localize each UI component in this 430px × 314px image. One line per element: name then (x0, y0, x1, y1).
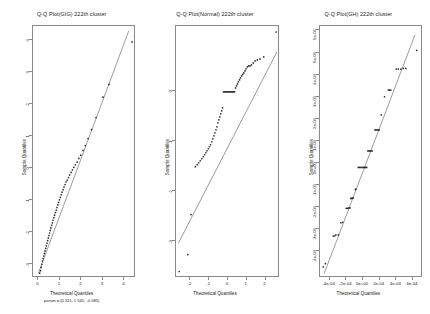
data-point (57, 204, 59, 206)
scatter-canvas-normal (176, 26, 278, 277)
data-point (52, 219, 54, 221)
data-point (95, 117, 97, 119)
data-point (397, 68, 399, 70)
reference-line (38, 31, 128, 273)
data-point (78, 158, 80, 160)
data-point (246, 68, 248, 70)
panel-title-gig: Q-Q Plot(GIG) 222th cluster (0, 11, 143, 17)
data-point (62, 189, 64, 191)
x-tick (345, 277, 346, 280)
x-tick-label: 0 (36, 281, 38, 286)
data-point (218, 119, 220, 121)
data-point (69, 174, 71, 176)
data-point (41, 263, 43, 265)
data-point (49, 232, 51, 234)
data-point (75, 164, 77, 166)
data-point (214, 132, 216, 134)
data-point (400, 68, 402, 70)
data-point (238, 81, 240, 83)
y-tick (172, 240, 175, 241)
data-point (68, 177, 70, 179)
x-tick (59, 277, 60, 280)
x-tick-label: 0 (226, 281, 228, 286)
x-tick-label: 2 (263, 281, 265, 286)
scatter-canvas-gh (320, 26, 422, 277)
data-point (241, 75, 243, 77)
data-point (195, 166, 197, 168)
data-point (239, 79, 241, 81)
data-point (42, 258, 44, 260)
data-point (341, 221, 343, 223)
y-tick-label: -2e-04 (311, 206, 316, 218)
y-tick (172, 190, 175, 191)
y-tick-label: -3 (25, 263, 30, 267)
x-tick (80, 277, 81, 280)
data-point (204, 154, 206, 156)
data-point (402, 68, 404, 70)
x-tick (227, 277, 228, 280)
data-point (210, 144, 212, 146)
x-tick (208, 277, 209, 280)
y-tick (172, 140, 175, 141)
y-tick-label: 2 (25, 103, 30, 105)
data-point (55, 212, 57, 214)
data-point (40, 270, 42, 272)
data-point (259, 58, 261, 60)
y-tick-label: -3 (168, 240, 173, 244)
y-tick-label: 3e-04 (311, 96, 316, 107)
data-point (322, 266, 324, 268)
data-point (215, 129, 217, 131)
x-axis-label-gig: Theoretical Quantiles (0, 291, 143, 296)
data-point (211, 141, 213, 143)
plot-area-normal (175, 25, 278, 277)
data-point (179, 271, 181, 273)
data-point (390, 89, 392, 91)
x-axis-label-gh: Theoretical Quantiles (287, 291, 430, 296)
data-point (415, 49, 417, 51)
reference-line (179, 52, 277, 243)
data-point (87, 138, 89, 140)
data-point (255, 60, 257, 62)
panel-normal: Q-Q Plot(Normal) 222th cluster Sample Qu… (143, 0, 286, 314)
y-tick (172, 90, 175, 91)
data-point (64, 184, 66, 186)
x-tick-label: -4e-04 (322, 281, 334, 286)
qq-plot-figure: Q-Q Plot(GIG) 222th cluster Sample Quant… (0, 0, 430, 314)
data-point (335, 234, 337, 236)
panel-title-normal: Q-Q Plot(Normal) 222th cluster (143, 11, 286, 17)
data-point (208, 148, 210, 150)
y-tick-label: -4e-04 (311, 250, 316, 262)
y-axis-label-normal: Sample Quantiles (165, 139, 170, 175)
y-tick-label: -3e-04 (311, 228, 316, 240)
y-tick-label: 1e-04 (311, 140, 316, 151)
data-point (212, 138, 214, 140)
data-point (58, 202, 60, 204)
data-point (349, 207, 351, 209)
x-tick-label: 1 (58, 281, 60, 286)
plot-area-gh (319, 25, 422, 277)
data-point (40, 267, 42, 269)
data-point (249, 65, 251, 67)
x-axis-label-normal: Theoretical Quantiles (143, 291, 286, 296)
x-tick (246, 277, 247, 280)
data-point (243, 72, 245, 74)
data-point (47, 240, 49, 242)
x-tick-label: 0e+00 (356, 281, 368, 286)
data-point (65, 181, 67, 183)
data-point (80, 154, 82, 156)
data-point (213, 135, 215, 137)
data-point (47, 237, 49, 239)
data-point (46, 242, 48, 244)
x-axis-sublabel-gig: param = (0.311, 1.545, -0.085) (0, 298, 143, 303)
data-point (257, 59, 259, 61)
y-tick-label: 4e-04 (311, 74, 316, 85)
x-tick-label: -2 (187, 281, 191, 286)
y-tick-label: -1 (168, 140, 173, 144)
data-point (235, 87, 237, 89)
data-point (236, 85, 238, 87)
data-point (52, 222, 54, 224)
data-point (48, 235, 50, 237)
data-point (383, 96, 385, 98)
data-point (221, 110, 223, 112)
panel-title-gh: Q-Q Plot(GH) 222th cluster (287, 11, 430, 17)
